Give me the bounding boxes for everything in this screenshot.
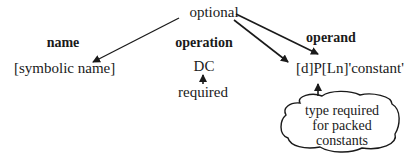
cloud-note: type required for packed constants bbox=[287, 103, 397, 148]
symbolic-name-value: [symbolic name] bbox=[14, 61, 115, 76]
arrow-optional-to-name bbox=[93, 18, 179, 62]
operation-heading: operation bbox=[175, 36, 233, 50]
cloud-line: for packed bbox=[287, 118, 397, 133]
dc-value: DC bbox=[194, 59, 215, 74]
arrow-optional-to-d bbox=[234, 20, 288, 62]
name-heading: name bbox=[47, 36, 80, 50]
cloud-line: constants bbox=[287, 133, 397, 148]
operand-heading: operand bbox=[306, 31, 356, 45]
cloud-line: type required bbox=[287, 103, 397, 118]
optional-label: optional bbox=[189, 5, 238, 20]
required-note: required bbox=[178, 85, 228, 100]
operand-value: [d]P[Ln]'constant' bbox=[296, 61, 404, 76]
